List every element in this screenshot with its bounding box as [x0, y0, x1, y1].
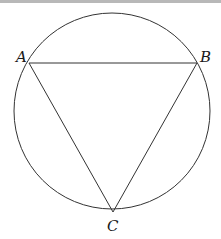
label-a: A	[14, 48, 27, 66]
segment-ac	[29, 63, 113, 212]
label-b: B	[199, 48, 211, 66]
label-c: C	[107, 217, 119, 235]
segment-bc	[113, 63, 197, 212]
circle-triangle-diagram: A B C	[0, 0, 221, 239]
circumcircle	[14, 13, 210, 209]
